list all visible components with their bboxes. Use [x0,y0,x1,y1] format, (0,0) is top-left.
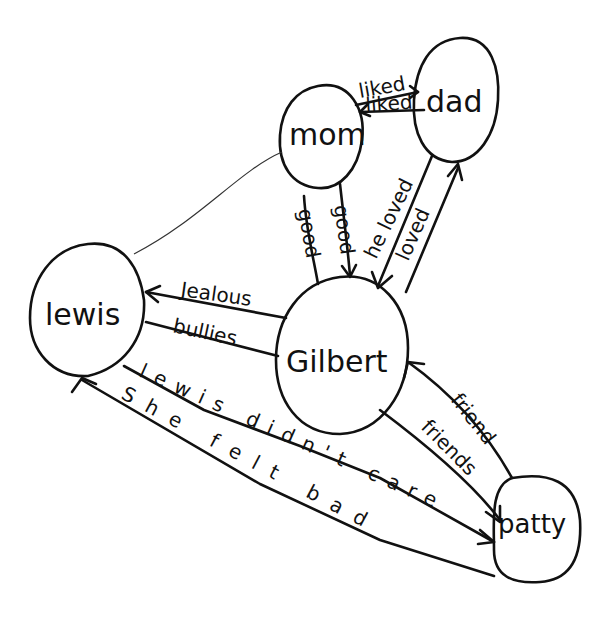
edge-mom-lewis [134,152,282,254]
edge-patty-lewis-felt-bad: She felt bad [72,378,494,576]
node-gilbert: Gilbert [276,276,408,434]
node-label-lewis: lewis [45,297,120,332]
edge-label-liked-2: liked [365,90,414,117]
edge-label-good-1: good [293,207,325,260]
node-dad: dad [414,38,499,162]
node-label-gilbert: Gilbert [286,344,388,379]
edge-label-jealous: Jealous [177,277,253,311]
node-label-patty: patty [498,509,566,539]
edge-mom-gilbert: good good [293,184,360,284]
node-label-mom: mom [289,117,366,152]
edge-dad-gilbert: he loved loved [359,156,462,292]
edge-label-bullies: bullies [171,313,239,350]
node-mom: mom [280,85,366,188]
edge-label-good-2: good [329,203,360,256]
node-lewis: lewis [30,244,144,376]
relationship-diagram: mom dad lewis Gilbert patty liked liked … [0,0,608,621]
node-patty: patty [494,476,581,582]
node-label-dad: dad [426,84,482,119]
edge-gilbert-lewis: Jealous bullies [146,277,286,356]
edge-mom-dad: liked liked [356,71,424,117]
